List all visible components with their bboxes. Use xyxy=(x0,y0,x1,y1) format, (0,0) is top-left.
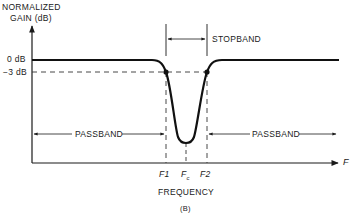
fc-label: Fc xyxy=(181,170,190,181)
f2-3db-point xyxy=(204,69,209,74)
stopband-label: STOPBAND xyxy=(212,35,261,44)
x-axis-end-label: F xyxy=(343,158,349,167)
x-axis-title: FREQUENCY xyxy=(158,188,214,197)
passband-right-label: PASSBAND xyxy=(252,130,300,139)
figure-caption: (B) xyxy=(180,205,191,213)
diagram-graphics xyxy=(0,0,350,216)
f2-label: F2 xyxy=(200,170,211,179)
tick-0db: 0 dB xyxy=(7,55,26,64)
fc-label-sub: c xyxy=(187,175,190,181)
f2-label-text: F2 xyxy=(200,169,211,179)
y-axis-title-line1: NORMALIZED xyxy=(2,3,61,12)
f1-3db-point xyxy=(163,69,168,74)
passband-left-label: PASSBAND xyxy=(75,130,123,139)
tick-minus3db: −3 dB xyxy=(3,68,27,77)
f1-label-text: F1 xyxy=(159,169,170,179)
y-axis-title-line2: GAIN (dB) xyxy=(10,14,52,23)
notch-filter-diagram: NORMALIZED GAIN (dB) 0 dB −3 dB STOPBAND… xyxy=(0,0,350,216)
f1-label: F1 xyxy=(159,170,170,179)
